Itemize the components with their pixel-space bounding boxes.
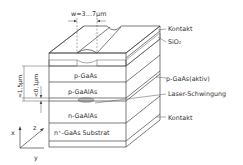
callout-laser: Laser-Schwingung [168, 90, 226, 98]
coordinate-axes: x y z [11, 124, 44, 162]
layer-label-n-gaalas: n-GaAlAs [68, 112, 98, 120]
axis-z-label: z [33, 124, 37, 132]
callout-active-layer: p-GaAs(aktiv) [166, 75, 210, 83]
callout-kontakt-bottom: Kontakt [168, 114, 193, 122]
layer-label-substrate: n⁺-GaAs Substrat [54, 129, 110, 137]
width-label: w≈3…7µm [71, 10, 106, 18]
width-dimension: w≈3…7µm [68, 10, 106, 53]
laser-spot [78, 98, 94, 103]
thickness-dimension: ≈1,5µm <0,1µm [17, 66, 49, 113]
axis-y-label: y [34, 154, 38, 162]
callout-sio2: SiO₂ [168, 38, 182, 46]
axis-x-label: x [11, 129, 15, 137]
layer-label-p-gaas: p-GaAs [74, 72, 98, 80]
inner-thickness-label: <0,1µm [33, 73, 40, 97]
side-face [126, 26, 160, 147]
outer-thickness-label: ≈1,5µm [17, 74, 24, 98]
layer-label-p-gaalas: p-GaAlAs [68, 88, 98, 96]
callout-lines [95, 29, 166, 117]
callout-kontakt-top: Kontakt [168, 25, 193, 33]
sio2-front-band [49, 60, 126, 66]
laser-diode-diagram: w≈3…7µm ≈1,5µm <0,1µm p-GaAs p-GaAlAs n-… [0, 0, 243, 165]
